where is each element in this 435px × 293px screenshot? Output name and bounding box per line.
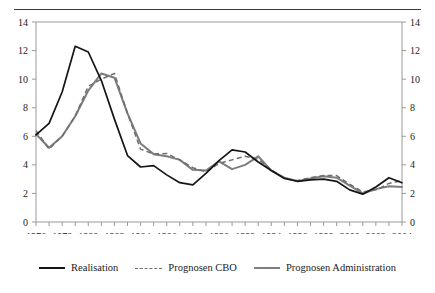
figure-container: 02468101214 02468101214 1976197819801982… [0, 0, 435, 293]
series-line-prognosen-cbo [36, 73, 402, 192]
svg-text:1988: 1988 [183, 231, 203, 234]
svg-text:1998: 1998 [314, 231, 334, 234]
plot-area: 02468101214 02468101214 1976197819801982… [0, 14, 435, 234]
svg-text:4: 4 [410, 159, 415, 170]
legend-label: Realisation [71, 263, 118, 274]
svg-text:1982: 1982 [104, 231, 124, 234]
svg-text:8: 8 [410, 102, 415, 113]
svg-text:0: 0 [23, 217, 28, 228]
legend-item-realisation: Realisation [39, 263, 118, 274]
legend-item-prognosen-administration: Prognosen Administration [254, 263, 396, 274]
chart-legend: Realisation Prognosen CBO Prognosen Admi… [0, 258, 435, 278]
svg-text:1986: 1986 [157, 231, 177, 234]
svg-text:1996: 1996 [287, 231, 307, 234]
svg-text:0: 0 [410, 217, 415, 228]
svg-text:6: 6 [410, 131, 415, 142]
svg-text:12: 12 [18, 45, 28, 56]
x-axis-labels: 1976197819801982198419861988199019921994… [26, 231, 412, 234]
svg-text:2004: 2004 [392, 231, 412, 234]
svg-text:2000: 2000 [340, 231, 360, 234]
svg-text:1992: 1992 [235, 231, 255, 234]
svg-text:6: 6 [23, 131, 28, 142]
dashed-gray-line-icon [135, 268, 162, 269]
svg-text:4: 4 [23, 159, 28, 170]
line-chart: 02468101214 02468101214 1976197819801982… [0, 14, 435, 234]
svg-text:14: 14 [18, 17, 28, 28]
data-series [36, 46, 402, 194]
svg-text:2002: 2002 [366, 231, 386, 234]
solid-gray-line-icon [254, 267, 280, 269]
series-line-realisation [36, 46, 402, 194]
svg-text:12: 12 [410, 45, 420, 56]
y-axis-labels-left: 02468101214 [18, 17, 28, 228]
svg-text:1976: 1976 [26, 231, 46, 234]
y-axis-labels-right: 02468101214 [410, 17, 420, 228]
svg-text:10: 10 [18, 74, 28, 85]
svg-text:1980: 1980 [78, 231, 98, 234]
axes [36, 22, 402, 222]
svg-text:8: 8 [23, 102, 28, 113]
svg-text:1990: 1990 [209, 231, 229, 234]
svg-text:10: 10 [410, 74, 420, 85]
svg-text:2: 2 [410, 188, 415, 199]
legend-label: Prognosen CBO [168, 263, 237, 274]
solid-black-line-icon [39, 267, 65, 269]
svg-text:14: 14 [410, 17, 420, 28]
svg-text:1978: 1978 [52, 231, 72, 234]
svg-text:1984: 1984 [131, 231, 151, 234]
legend-label: Prognosen Administration [286, 263, 396, 274]
top-rule-divider [14, 9, 421, 10]
legend-item-prognosen-cbo: Prognosen CBO [135, 263, 237, 274]
series-line-prognosen-administration [36, 73, 402, 193]
svg-text:2: 2 [23, 188, 28, 199]
svg-text:1994: 1994 [261, 231, 281, 234]
